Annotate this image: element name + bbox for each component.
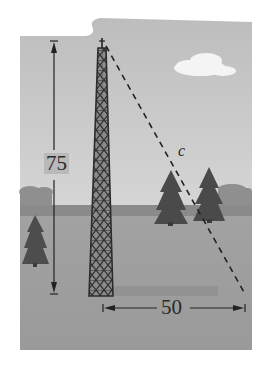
tower-diagram (0, 0, 267, 368)
height-label: 75 (44, 153, 69, 174)
hypotenuse-label: c (176, 143, 187, 159)
base-label: 50 (159, 297, 184, 318)
